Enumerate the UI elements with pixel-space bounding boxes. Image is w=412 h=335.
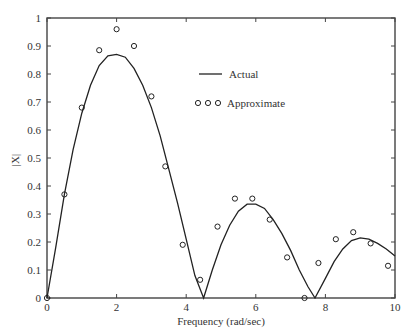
x-tick-label: 8 [323,301,329,313]
actual-series-line [47,54,395,298]
x-axis-ticks: 0246810 [44,18,401,313]
x-tick-label: 10 [390,301,402,313]
y-tick-label: 0.9 [27,40,41,52]
y-tick-label: 0.1 [27,264,41,276]
approximate-data-point [180,242,185,247]
approximate-data-point [131,43,136,48]
y-tick-label: 0.7 [27,96,41,108]
y-tick-label: 0 [36,292,42,304]
approximate-data-point [316,260,321,265]
y-tick-label: 0.5 [27,152,41,164]
x-tick-label: 4 [183,301,189,313]
legend: Actual Approximate [195,68,285,109]
x-axis-label: Frequency (rad/sec) [177,315,265,328]
approximate-data-point [114,27,119,32]
approximate-data-point [215,224,220,229]
y-axis-label: |X| [9,154,21,166]
legend-actual-label: Actual [229,68,258,80]
legend-approximate-label: Approximate [227,97,285,109]
approximate-data-point [368,241,373,246]
y-tick-label: 0.6 [27,124,41,136]
approximate-data-point [163,164,168,169]
approximate-data-point [250,196,255,201]
y-tick-label: 1 [36,12,42,24]
x-tick-label: 6 [253,301,259,313]
chart-figure: 0246810 00.10.20.30.40.50.60.70.80.91 Ac… [0,0,412,335]
y-tick-label: 0.8 [27,68,41,80]
y-tick-label: 0.3 [27,208,41,220]
approximate-series-markers [44,27,390,301]
y-tick-label: 0.4 [27,180,41,192]
approximate-data-point [351,230,356,235]
approximate-data-point [385,263,390,268]
approximate-data-point [285,255,290,260]
legend-approx-markers-icon [195,100,220,105]
approximate-data-point [149,94,154,99]
y-tick-label: 0.2 [27,236,41,248]
approximate-data-point [97,48,102,53]
approximate-data-point [267,217,272,222]
plot-area-border [47,18,395,298]
approximate-data-point [232,196,237,201]
y-axis-ticks: 00.10.20.30.40.50.60.70.80.91 [27,12,395,304]
x-tick-label: 2 [114,301,120,313]
approximate-data-point [198,277,203,282]
x-tick-label: 0 [44,301,50,313]
approximate-data-point [333,237,338,242]
axes-frame [47,18,395,298]
